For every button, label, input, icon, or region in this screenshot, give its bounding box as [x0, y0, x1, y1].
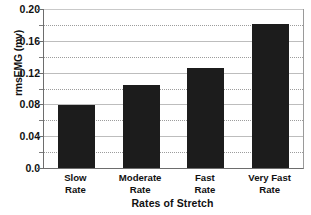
bar — [123, 85, 160, 168]
x-axis-tick-labels: Slow RateModerate RateFast RateVery Fast… — [43, 172, 302, 198]
y-tick-mark — [37, 73, 43, 74]
y-tick-mark — [37, 136, 43, 137]
bar — [187, 68, 224, 168]
bar — [252, 24, 289, 168]
bar — [58, 105, 95, 168]
plot-inner — [44, 9, 303, 168]
y-axis-tick-labels: 0.00.040.080.120.160.20 — [12, 0, 40, 215]
y-tick-label: 0.16 — [12, 36, 40, 47]
gridline-major — [44, 9, 303, 10]
x-tick-label: Moderate Rate — [108, 172, 173, 195]
x-axis-title: Rates of Stretch — [43, 197, 302, 209]
y-tick-mark-minor — [39, 25, 43, 26]
y-tick-mark-minor — [39, 89, 43, 90]
x-tick-label: Slow Rate — [43, 172, 108, 195]
bar-chart-figure: rmsEMG (mv) 0.00.040.080.120.160.20 Slow… — [0, 0, 311, 215]
y-tick-label: 0.20 — [12, 4, 40, 15]
y-tick-label: 0.04 — [12, 131, 40, 142]
y-tick-mark-minor — [39, 57, 43, 58]
y-tick-label: 0.12 — [12, 67, 40, 78]
y-tick-label: 0.08 — [12, 99, 40, 110]
y-tick-mark — [37, 41, 43, 42]
y-tick-mark — [37, 104, 43, 105]
y-tick-mark — [37, 9, 43, 10]
y-tick-mark-minor — [39, 152, 43, 153]
y-tick-mark-minor — [39, 120, 43, 121]
x-tick-label: Fast Rate — [173, 172, 238, 195]
y-tick-mark — [37, 168, 43, 169]
x-tick-label: Very Fast Rate — [237, 172, 302, 195]
y-tick-label: 0.0 — [12, 163, 40, 174]
plot-area — [43, 9, 304, 169]
